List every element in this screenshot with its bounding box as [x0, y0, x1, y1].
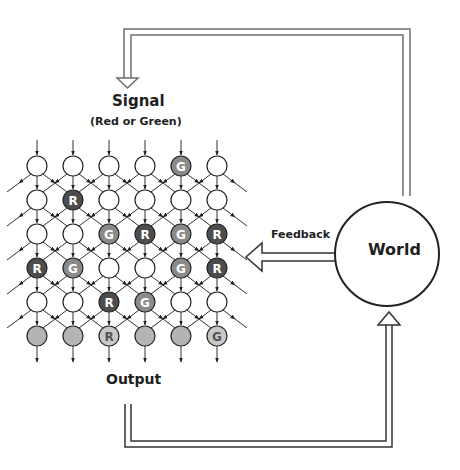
svg-text:G: G: [176, 228, 186, 242]
network-node: [135, 190, 155, 210]
svg-text:G: G: [176, 262, 186, 276]
network-node: [135, 326, 155, 346]
network-node: G: [135, 292, 155, 312]
network-node: [27, 326, 47, 346]
network-node: [27, 190, 47, 210]
network-node: G: [207, 326, 227, 346]
network-node: R: [135, 224, 155, 244]
network-node: R: [207, 224, 227, 244]
network-node: [99, 190, 119, 210]
network-node: [27, 224, 47, 244]
network-node: [63, 292, 83, 312]
network-node: R: [99, 326, 119, 346]
node-grid: GRGRGRRGGRRGRG: [7, 140, 247, 362]
network-node: G: [171, 156, 191, 176]
network-node: R: [207, 258, 227, 278]
network-node: G: [171, 224, 191, 244]
network-node: [99, 156, 119, 176]
svg-text:G: G: [104, 228, 114, 242]
signal-loop-arrow: [117, 29, 410, 196]
network-node: [207, 292, 227, 312]
world-label: World: [368, 240, 421, 259]
output-label: Output: [106, 371, 161, 387]
svg-text:R: R: [212, 228, 221, 242]
svg-text:R: R: [140, 228, 149, 242]
network-node: [207, 156, 227, 176]
network-node: [171, 292, 191, 312]
network-node: R: [27, 258, 47, 278]
network-node: [99, 258, 119, 278]
svg-text:G: G: [140, 296, 150, 310]
svg-text:R: R: [32, 262, 41, 276]
feedback-arrow: [246, 243, 337, 271]
network-node: R: [63, 190, 83, 210]
signal-subtitle: (Red or Green): [90, 115, 182, 128]
network-node: [171, 326, 191, 346]
feedback-label: Feedback: [271, 228, 330, 241]
network-node: G: [99, 224, 119, 244]
svg-text:R: R: [104, 296, 113, 310]
network-node: [63, 326, 83, 346]
output-loop-arrow: [125, 312, 400, 447]
network-node: G: [171, 258, 191, 278]
network-node: [135, 156, 155, 176]
network-node: R: [99, 292, 119, 312]
network-node: [63, 224, 83, 244]
network-node: [135, 258, 155, 278]
network-node: [63, 156, 83, 176]
svg-text:R: R: [68, 194, 77, 208]
network-node: [207, 190, 227, 210]
svg-text:G: G: [176, 160, 186, 174]
network-node: [171, 190, 191, 210]
network-node: G: [63, 258, 83, 278]
svg-text:R: R: [104, 330, 113, 344]
svg-text:R: R: [212, 262, 221, 276]
network-node: [27, 292, 47, 312]
svg-text:G: G: [212, 330, 222, 344]
svg-text:G: G: [68, 262, 78, 276]
signal-title: Signal: [112, 92, 165, 110]
network-diagram: GRGRGRRGGRRGRG: [0, 0, 460, 470]
network-node: [27, 156, 47, 176]
